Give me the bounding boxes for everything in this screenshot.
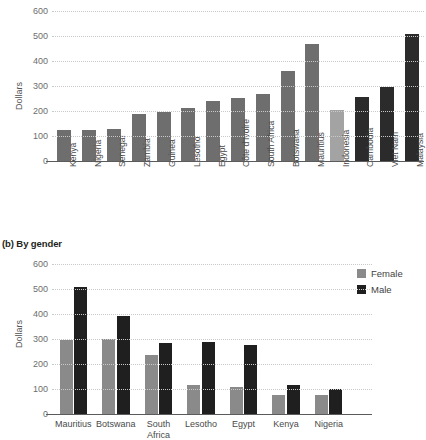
bar-male — [159, 343, 172, 414]
x-axis-tick-label: Egypt — [222, 419, 265, 430]
x-axis-tick-label: Lesotho — [180, 419, 223, 430]
bar-female — [60, 340, 73, 414]
x-axis-tick-label: Zambia — [142, 138, 152, 167]
x-axis-line — [46, 161, 424, 162]
gridline — [52, 264, 372, 265]
x-axis-tick-label: Botswana — [95, 419, 138, 430]
bar-male — [117, 316, 130, 414]
x-axis-tick-label: Kenya — [265, 419, 308, 430]
y-axis-tick-label: 0 — [22, 156, 48, 166]
x-axis-line — [46, 414, 372, 415]
bar-female — [272, 395, 285, 414]
x-axis-tick-label: Egypt — [217, 145, 227, 167]
legend-label: Female — [371, 268, 403, 279]
gridline — [52, 111, 424, 112]
gridline — [52, 339, 372, 340]
y-axis-tick-label: 200 — [22, 359, 48, 369]
x-axis-tick-label: Guinea — [167, 139, 177, 167]
y-axis-tick-label: 100 — [22, 384, 48, 394]
x-axis-tick-label: Lesotho — [192, 136, 202, 167]
x-axis-tick-label: Senegal — [117, 135, 127, 167]
legend-label: Male — [371, 284, 392, 295]
y-axis-tick-label: 400 — [22, 56, 48, 66]
x-axis-tick-label: Nigeria — [307, 419, 350, 430]
legend-item-female[interactable]: Female — [357, 268, 403, 279]
x-axis-tick-label: South Africa — [137, 419, 180, 440]
y-axis-ticks-a: 0100200300400500600 — [22, 0, 48, 238]
gridline — [52, 11, 424, 12]
y-axis-tick-label: 300 — [22, 81, 48, 91]
y-axis-tick-label: 600 — [22, 259, 48, 269]
bar-female — [230, 387, 243, 415]
gridline — [52, 389, 372, 390]
bar-male — [244, 345, 257, 414]
gridline — [52, 136, 424, 137]
bar-female — [102, 339, 115, 414]
y-axis-tick-label: 0 — [22, 409, 48, 419]
y-axis-tick-label: 200 — [22, 106, 48, 116]
y-axis-tick-label: 100 — [22, 131, 48, 141]
legend-swatch-icon — [357, 269, 366, 278]
gridline — [52, 86, 424, 87]
gridline — [52, 61, 424, 62]
chart-panel-b: (b) By gender Dollars 010020030040050060… — [0, 238, 426, 436]
bar-male — [329, 389, 342, 414]
bar-male — [202, 342, 215, 414]
gridline — [52, 36, 424, 37]
x-axis-tick-label: Mauritius — [52, 419, 95, 430]
bar-female — [315, 395, 328, 415]
y-axis-ticks-b: 0100200300400500600 — [22, 238, 48, 436]
y-axis-tick-label: 500 — [22, 284, 48, 294]
gridline — [52, 314, 372, 315]
x-axis-tick-label: Kenya — [68, 143, 78, 167]
y-axis-tick-label: 300 — [22, 334, 48, 344]
x-axis-tick-label: Nigeria — [93, 140, 103, 167]
y-axis-tick-label: 400 — [22, 309, 48, 319]
y-axis-tick-label: 500 — [22, 31, 48, 41]
y-axis-tick-label: 600 — [22, 6, 48, 16]
gridline — [52, 289, 372, 290]
x-axis-tick-label: Côte d'Ivoire — [241, 119, 251, 167]
chart-panel-a: Dollars 0100200300400500600 KenyaNigeria… — [0, 0, 426, 238]
gridline — [52, 364, 372, 365]
bar-male — [74, 287, 87, 414]
